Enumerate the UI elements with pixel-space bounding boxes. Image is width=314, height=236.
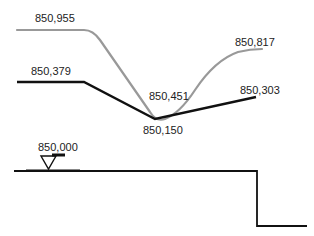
level-triangle-icon: [41, 155, 65, 169]
lower-end-label: 850,303: [240, 85, 280, 96]
upper-min-label: 850,451: [149, 91, 189, 102]
reference-level-label: 850,000: [38, 142, 78, 153]
upper-start-label: 850,955: [35, 13, 75, 24]
lower-start-label: 850,379: [31, 66, 71, 77]
lower-profile-line: [17, 82, 256, 119]
lower-min-label: 850,150: [143, 125, 183, 136]
upper-end-label: 850,817: [235, 37, 275, 48]
elevation-diagram: 850,955 850,451 850,817 850,379 850,150 …: [0, 0, 314, 236]
ground-line: [14, 171, 307, 226]
